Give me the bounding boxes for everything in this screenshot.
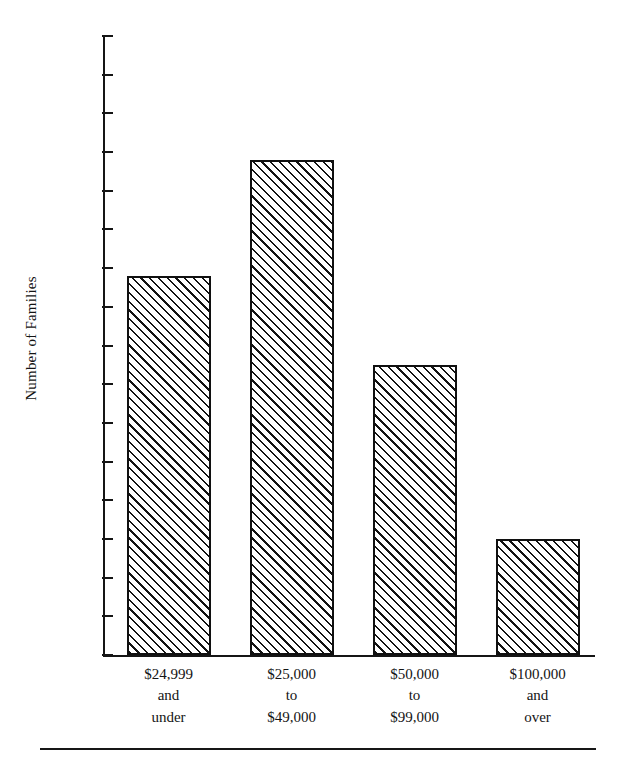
y-tick-mark xyxy=(102,35,113,37)
x-category-label: $50,000to$99,000 xyxy=(345,664,485,728)
y-tick-mark xyxy=(102,345,113,347)
bar xyxy=(373,365,457,655)
y-tick-mark xyxy=(102,151,113,153)
bar xyxy=(250,160,334,655)
bar-chart-figure: Number of Families 807570656055504540353… xyxy=(0,0,638,766)
x-category-label-line: $50,000 xyxy=(345,664,485,685)
y-tick-mark xyxy=(102,538,113,540)
x-category-label: $24,999andunder xyxy=(99,664,239,728)
y-tick-mark xyxy=(102,267,113,269)
y-tick-mark xyxy=(102,422,113,424)
y-tick-mark xyxy=(102,654,113,656)
y-tick-mark xyxy=(102,74,113,76)
y-tick-mark xyxy=(102,190,113,192)
x-category-label-line: to xyxy=(345,685,485,706)
bottom-horizontal-rule xyxy=(40,748,596,750)
y-tick-mark xyxy=(102,306,113,308)
x-category-label-line: and xyxy=(468,685,608,706)
x-category-label-line: $24,999 xyxy=(99,664,239,685)
x-category-label-line: $49,000 xyxy=(222,707,362,728)
bar xyxy=(127,276,211,655)
x-category-label-line: under xyxy=(99,707,239,728)
x-category-label: $25,000to$49,000 xyxy=(222,664,362,728)
x-category-label: $100,000andover xyxy=(468,664,608,728)
y-tick-mark xyxy=(102,615,113,617)
x-category-label-line: $100,000 xyxy=(468,664,608,685)
x-axis-line xyxy=(103,655,595,657)
y-tick-mark xyxy=(102,461,113,463)
x-category-label-line: $99,000 xyxy=(345,707,485,728)
x-category-label-line: to xyxy=(222,685,362,706)
x-category-label-line: $25,000 xyxy=(222,664,362,685)
y-tick-mark xyxy=(102,112,113,114)
y-axis-title: Number of Families xyxy=(23,239,40,439)
y-axis-line xyxy=(103,36,105,657)
y-tick-mark xyxy=(102,577,113,579)
plot-area: 80757065605550454035302520151050 $24,999… xyxy=(103,36,595,657)
bar xyxy=(496,539,580,655)
y-tick-mark xyxy=(102,499,113,501)
x-category-label-line: over xyxy=(468,707,608,728)
x-category-label-line: and xyxy=(99,685,239,706)
y-tick-mark xyxy=(102,383,113,385)
y-tick-mark xyxy=(102,228,113,230)
